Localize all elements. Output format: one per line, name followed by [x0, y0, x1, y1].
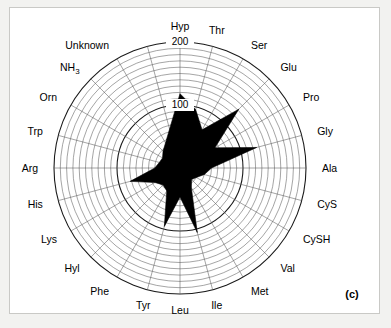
axis-label-thr: Thr: [209, 24, 225, 36]
axis-label-orn: Orn: [40, 91, 58, 103]
axis-label-glu: Glu: [280, 61, 297, 73]
axis-label-cys: CyS: [317, 198, 337, 210]
radial-tick-label-100: 100: [172, 99, 189, 110]
axis-label-nh3: NH3: [60, 61, 80, 76]
axis-label-leu: Leu: [171, 304, 189, 316]
axis-label-hyp: Hyp: [171, 20, 190, 32]
panel-caption: (c): [345, 288, 359, 300]
axis-label-his: His: [28, 198, 43, 210]
figure-page: HypThrSerGluProGlyAlaCySCySHValMetIleLeu…: [0, 0, 391, 328]
axis-label-pro: Pro: [303, 91, 320, 103]
radar-chart: HypThrSerGluProGlyAlaCySCySHValMetIleLeu…: [0, 0, 391, 328]
axis-label-arg: Arg: [22, 162, 39, 174]
axis-label-cysh: CySH: [303, 233, 330, 245]
axis-label-unknown: Unknown: [65, 39, 109, 51]
axis-label-val: Val: [280, 262, 294, 274]
radial-tick-label-200: 200: [172, 36, 189, 47]
axis-label-phe: Phe: [90, 285, 109, 297]
axis-label-ala: Ala: [322, 162, 337, 174]
axis-label-lys: Lys: [41, 233, 57, 245]
axis-label-trp: Trp: [27, 125, 43, 137]
axis-label-tyr: Tyr: [136, 299, 151, 311]
axis-label-gly: Gly: [317, 125, 334, 137]
axis-label-ile: Ile: [211, 299, 222, 311]
axis-label-met: Met: [251, 285, 269, 297]
axis-label-ser: Ser: [251, 39, 268, 51]
axis-label-hyl: Hyl: [64, 262, 79, 274]
